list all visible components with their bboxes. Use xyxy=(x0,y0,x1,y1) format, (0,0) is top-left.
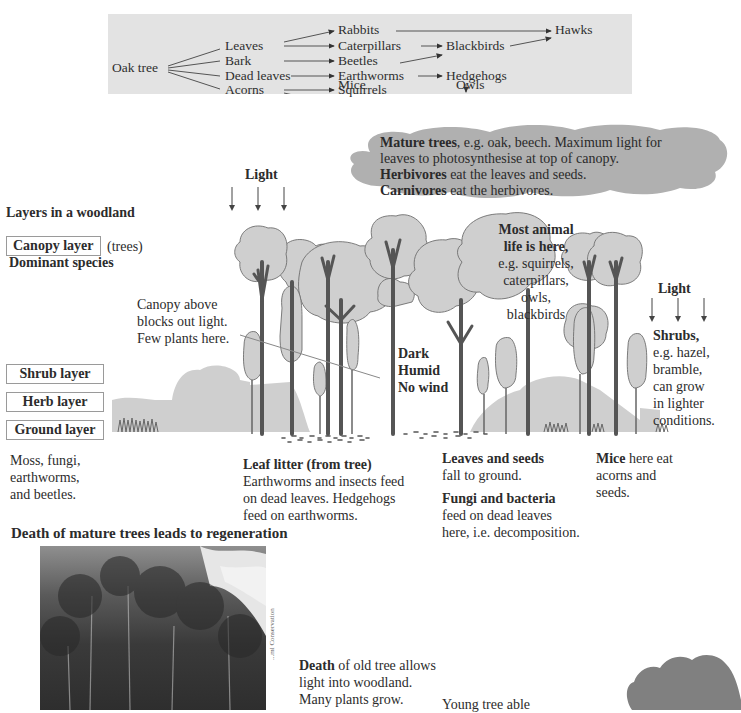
conditions-note: Dark Humid No wind xyxy=(398,345,448,396)
text: e.g. squirrels, xyxy=(486,255,586,272)
text: light into woodland. xyxy=(299,674,436,691)
text: conditions. xyxy=(653,412,715,429)
tree-silhouettes xyxy=(40,546,266,710)
text: Humid xyxy=(398,362,448,379)
dark-tree-crown-shape xyxy=(620,650,741,710)
text: earthworms, xyxy=(10,469,80,486)
bold-term: Shrubs, xyxy=(653,327,715,344)
text: Dark xyxy=(398,345,448,362)
text: on dead leaves. Hedgehogs xyxy=(243,490,404,507)
leaf-litter-note: Leaf litter (from tree) Earthworms and i… xyxy=(243,456,404,524)
text: of old tree allows xyxy=(335,658,436,673)
text: acorns and xyxy=(596,467,673,484)
text: here, i.e. decomposition. xyxy=(442,524,580,541)
bold-term: Fungi and bacteria xyxy=(442,490,580,507)
text: can grow xyxy=(653,378,715,395)
leaves-seeds-note: Leaves and seeds fall to ground. xyxy=(442,450,544,484)
bold-term: Leaf litter (from tree) xyxy=(243,456,404,473)
text: feed on earthworms. xyxy=(243,507,404,524)
text: bramble, xyxy=(653,361,715,378)
text: in lighter xyxy=(653,395,715,412)
light-arrows-icon xyxy=(648,298,710,322)
light-label-right: Light xyxy=(658,281,691,297)
bold-term: Mice xyxy=(596,451,626,466)
bold-term: life is here, xyxy=(486,238,586,255)
shrubs-note: Shrubs, e.g. hazel, bramble, can grow in… xyxy=(653,327,715,429)
text: and beetles. xyxy=(10,486,80,503)
text: owls, xyxy=(486,289,586,306)
bold-term: Death xyxy=(299,658,335,673)
young-tree-note: Young tree able xyxy=(442,696,530,713)
woodland-illustration xyxy=(0,0,741,460)
text: Earthworms and insects feed xyxy=(243,473,404,490)
death-note: Death of old tree allows light into wood… xyxy=(299,657,436,708)
bold-term: Most animal xyxy=(486,221,586,238)
text: fall to ground. xyxy=(442,467,544,484)
photo-credit: ...ml Conservation xyxy=(268,608,276,660)
text: here eat xyxy=(626,451,673,466)
mice-note: Mice here eat acorns and seeds. xyxy=(596,450,673,501)
bold-term: Leaves and seeds xyxy=(442,450,544,467)
regeneration-title: Death of mature trees leads to regenerat… xyxy=(11,525,288,542)
animal-life-note: Most animal life is here, e.g. squirrels… xyxy=(486,221,586,323)
text: e.g. hazel, xyxy=(653,344,715,361)
fungi-note: Fungi and bacteria feed on dead leaves h… xyxy=(442,490,580,541)
text: blackbirds xyxy=(486,306,586,323)
woodland-photo xyxy=(40,546,266,710)
text: seeds. xyxy=(596,484,673,501)
text: feed on dead leaves xyxy=(442,507,580,524)
text: caterpillars, xyxy=(486,272,586,289)
text: No wind xyxy=(398,379,448,396)
text: Many plants grow. xyxy=(299,691,436,708)
